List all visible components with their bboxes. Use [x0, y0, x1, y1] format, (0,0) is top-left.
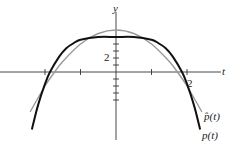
y-tick-label-2: 2 [104, 51, 110, 63]
x-tick-label-2: 2 [187, 77, 193, 89]
y-axis [113, 12, 119, 140]
chart: y t 2 2 p̂(t) p(t) [0, 0, 228, 149]
y-axis-label: y [112, 2, 118, 14]
t-axis [0, 69, 221, 75]
p-legend-label: p(t) [201, 129, 218, 142]
phat-legend-label: p̂(t) [203, 110, 220, 123]
t-axis-label: t [222, 65, 226, 77]
